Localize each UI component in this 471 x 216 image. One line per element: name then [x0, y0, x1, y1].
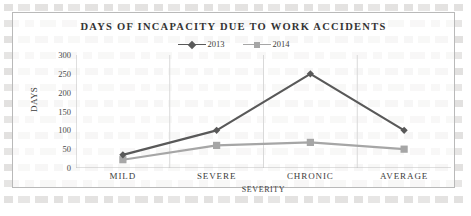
- chart-container: DAYS OF INCAPACITY DUE TO WORK ACCIDENTS…: [12, 12, 455, 188]
- legend-swatch-2013: [178, 40, 206, 49]
- data-point-2014-SEVERE: [213, 142, 220, 149]
- y-axis-title: DAYS: [29, 87, 39, 112]
- legend-marker-diamond-icon: [187, 40, 195, 48]
- chart-legend: 2013 2014: [13, 39, 454, 49]
- plot-svg: [76, 55, 451, 168]
- x-axis-tick-label: SEVERE: [170, 171, 264, 181]
- legend-item-2013[interactable]: 2013: [178, 39, 225, 49]
- plot-area: 050100150200250300: [76, 55, 451, 168]
- y-axis-tick-label: 150: [58, 107, 71, 117]
- chart-title: DAYS OF INCAPACITY DUE TO WORK ACCIDENTS: [13, 21, 454, 32]
- x-axis-tick-label: MILD: [76, 171, 170, 181]
- y-axis-tick-label: 200: [58, 88, 71, 98]
- data-point-2014-AVERAGE: [401, 146, 408, 153]
- x-axis-title: SEVERITY: [76, 185, 451, 194]
- legend-item-2014[interactable]: 2014: [243, 39, 290, 49]
- y-axis-tick-label: 300: [58, 50, 71, 60]
- y-axis-tick-label: 100: [58, 125, 71, 135]
- x-axis-tick-label: AVERAGE: [357, 171, 451, 181]
- y-axis-tick-label: 50: [63, 144, 72, 154]
- legend-label-2014: 2014: [273, 39, 290, 49]
- y-axis-tick-label: 250: [58, 69, 71, 79]
- ghost-text-line: [4, 196, 467, 203]
- legend-label-2013: 2013: [208, 39, 225, 49]
- legend-swatch-2014: [243, 40, 271, 49]
- legend-marker-square-icon: [254, 42, 260, 48]
- x-axis-tick-labels: MILDSEVERECHRONICAVERAGE: [76, 171, 451, 181]
- x-axis-tick-label: CHRONIC: [264, 171, 358, 181]
- y-axis-tick-label: 0: [67, 163, 71, 173]
- data-point-2014-CHRONIC: [307, 139, 314, 146]
- ghost-text-line: [4, 4, 467, 11]
